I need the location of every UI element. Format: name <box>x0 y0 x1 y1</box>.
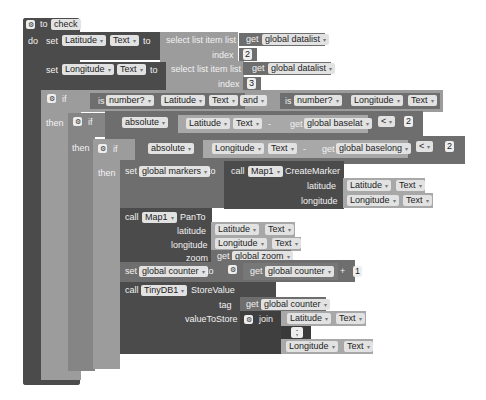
gear-icon[interactable]: ⚙ <box>98 144 107 153</box>
call-label: call <box>125 285 139 296</box>
get-label: get <box>250 266 263 277</box>
tag-param-label: tag <box>219 300 232 311</box>
set-label: set <box>125 166 137 177</box>
map-component-dropdown[interactable]: Map1▾ <box>142 212 177 223</box>
value-param-label: valueToStore <box>185 314 238 325</box>
longitude-component-dropdown[interactable]: Longitude▾ <box>215 238 267 249</box>
gear-icon[interactable]: ⚙ <box>228 265 237 274</box>
text-property-dropdown[interactable]: Text▾ <box>117 64 146 75</box>
call-label: call <box>231 166 245 177</box>
longitude-component-dropdown[interactable]: Longitude▾ <box>286 341 338 352</box>
tinydb-component-dropdown[interactable]: TinyDB1▾ <box>141 285 187 296</box>
and-dropdown[interactable]: and▾ <box>240 95 267 106</box>
then-label: then <box>98 168 116 179</box>
then-label: then <box>46 118 64 129</box>
longitude-param-label: longitude <box>171 240 208 251</box>
set-label: set <box>46 36 58 47</box>
minus-op: - <box>268 119 271 130</box>
latitude-component-dropdown[interactable]: Latitude▾ <box>347 180 391 191</box>
get-label: get <box>322 144 335 155</box>
latitude-component-dropdown[interactable]: Latitude▾ <box>186 118 230 129</box>
text-property-dropdown[interactable]: Text▾ <box>265 224 294 235</box>
counter-var-dropdown[interactable]: global counter▾ <box>265 266 334 277</box>
increment-value[interactable]: 1 <box>353 266 362 277</box>
baselong-var-dropdown[interactable]: global baselong▾ <box>336 143 411 154</box>
absolute-fn-dropdown[interactable]: absolute▾ <box>148 143 194 154</box>
compare-value[interactable]: 2 <box>445 141 454 152</box>
if-label: if <box>113 144 118 155</box>
to-label: to <box>208 166 216 177</box>
if-label: if <box>62 94 67 105</box>
index-label: index <box>212 50 234 61</box>
counter-var-dropdown[interactable]: global counter▾ <box>261 299 330 310</box>
text-property-dropdown[interactable]: Text▾ <box>396 180 425 191</box>
get-label: get <box>246 34 259 45</box>
longitude-component-dropdown[interactable]: Longitude▾ <box>62 64 114 75</box>
call-label: call <box>125 212 139 223</box>
number-check-dropdown[interactable]: number?▾ <box>294 95 342 106</box>
get-label: get <box>246 299 259 310</box>
gear-icon[interactable]: ⚙ <box>26 20 35 29</box>
to-label: to <box>150 65 158 76</box>
plus-op: + <box>340 266 345 277</box>
longitude-component-dropdown[interactable]: Longitude▾ <box>351 95 403 106</box>
to-label: to <box>143 36 151 47</box>
text-property-dropdown[interactable]: Text▾ <box>336 313 365 324</box>
text-property-dropdown[interactable]: Text▾ <box>233 118 262 129</box>
number-check-dropdown[interactable]: number?▾ <box>106 95 154 106</box>
less-than-dropdown[interactable]: <▾ <box>416 141 433 152</box>
select-list-item-label: select list item list <box>171 64 241 75</box>
join-label: join <box>259 314 273 325</box>
procedure-name[interactable]: check <box>51 19 81 30</box>
compare-value[interactable]: 2 <box>404 116 413 127</box>
then-label: then <box>72 143 90 154</box>
absolute-fn-dropdown[interactable]: absolute▾ <box>122 117 168 128</box>
method-label: CreateMarker <box>285 166 340 177</box>
datalist-var-dropdown[interactable]: global datalist▾ <box>268 63 335 74</box>
index-number[interactable]: 3 <box>247 78 256 89</box>
index-number[interactable]: 2 <box>243 49 252 60</box>
longitude-param-label: longitude <box>301 196 338 207</box>
set-label: set <box>46 65 58 76</box>
less-than-dropdown[interactable]: <▾ <box>378 116 395 127</box>
gear-icon[interactable]: ⚙ <box>47 94 56 103</box>
latitude-component-dropdown[interactable]: Latitude▾ <box>287 313 331 324</box>
markers-var-dropdown[interactable]: global markers▾ <box>139 166 210 177</box>
gear-icon[interactable]: ⚙ <box>244 315 253 324</box>
is-label: is <box>285 96 292 107</box>
method-label: PanTo <box>180 212 206 223</box>
get-label: get <box>290 119 303 130</box>
text-property-dropdown[interactable]: Text▾ <box>272 238 301 249</box>
select-list-item-label: select list item list <box>166 35 236 46</box>
longitude-component-dropdown[interactable]: Longitude▾ <box>347 195 399 206</box>
counter-var-dropdown[interactable]: global counter▾ <box>139 266 208 277</box>
set-label: set <box>125 266 137 277</box>
text-property-dropdown[interactable]: Text▾ <box>209 95 238 106</box>
gear-icon[interactable]: ⚙ <box>73 117 82 126</box>
do-label: do <box>28 36 38 47</box>
get-label: get <box>252 63 265 74</box>
method-label: StoreValue <box>191 285 235 296</box>
minus-op: - <box>303 144 306 155</box>
text-property-dropdown[interactable]: Text▾ <box>268 143 297 154</box>
baselat-var-dropdown[interactable]: global baselat▾ <box>304 118 372 129</box>
latitude-param-label: latitude <box>307 181 336 192</box>
to-label: to <box>40 19 48 30</box>
separator-text[interactable]: ; <box>291 327 303 338</box>
latitude-component-dropdown[interactable]: Latitude▾ <box>161 95 205 106</box>
if-label: if <box>88 117 93 128</box>
latitude-component-dropdown[interactable]: Latitude▾ <box>62 35 106 46</box>
text-property-dropdown[interactable]: Text▾ <box>408 95 437 106</box>
longitude-component-dropdown[interactable]: Longitude▾ <box>212 143 264 154</box>
index-label: index <box>218 79 240 90</box>
latitude-component-dropdown[interactable]: Latitude▾ <box>215 224 259 235</box>
to-label: to <box>206 266 214 277</box>
text-property-dropdown[interactable]: Text▾ <box>403 195 432 206</box>
is-label: is <box>98 96 105 107</box>
map-component-dropdown[interactable]: Map1▾ <box>248 166 283 177</box>
text-property-dropdown[interactable]: Text▾ <box>344 341 373 352</box>
latitude-param-label: latitude <box>177 226 206 237</box>
text-property-dropdown[interactable]: Text▾ <box>110 35 139 46</box>
datalist-var-dropdown[interactable]: global datalist▾ <box>262 34 329 45</box>
